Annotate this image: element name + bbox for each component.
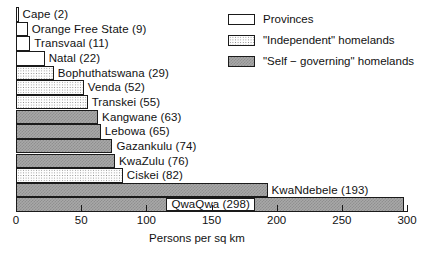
bar-label: Orange Free State (9) <box>28 22 147 37</box>
bar <box>16 66 54 81</box>
bar-label: Kangwane (63) <box>98 110 181 125</box>
axis-tick-label: 0 <box>13 214 19 226</box>
bar-label: Venda (52) <box>84 80 145 95</box>
bar-label: Lebowa (65) <box>101 124 170 139</box>
bar-label: Cape (2) <box>19 7 69 22</box>
legend-swatch <box>228 56 255 67</box>
bar <box>16 22 28 37</box>
axis-tick <box>81 205 82 212</box>
axis-tick <box>16 205 17 212</box>
bar <box>16 124 101 139</box>
bar <box>16 80 84 95</box>
bar-label: Transkei (55) <box>88 95 161 110</box>
bar-label: KwaNdebele (193) <box>268 183 369 198</box>
legend-item: "Self − governing" homelands <box>228 52 414 70</box>
axis-tick-label: 250 <box>332 214 351 226</box>
bar <box>16 51 45 66</box>
bar-label: KwaZulu (76) <box>115 154 189 169</box>
bar-label: Bophuthatswana (29) <box>54 66 169 81</box>
legend-item: "Independent" homelands <box>228 31 414 49</box>
axis-tick-label: 300 <box>397 214 416 226</box>
axis-tick-label: 150 <box>202 214 221 226</box>
axis-tick-label: 200 <box>267 214 286 226</box>
bar-chart: Cape (2)Orange Free State (9)Transvaal (… <box>0 0 434 258</box>
axis-tick-label: 50 <box>75 214 88 226</box>
bar-label: Gazankulu (74) <box>112 139 196 154</box>
bar <box>16 183 268 198</box>
bar <box>16 110 98 125</box>
bar-label: Natal (22) <box>45 51 101 66</box>
bar-label: Ciskei (82) <box>123 168 183 183</box>
axis-title-label: Persons per sq km <box>149 232 245 244</box>
legend-label: Provinces <box>263 13 314 25</box>
bar <box>16 36 30 51</box>
axis-tick <box>277 205 278 212</box>
x-axis: 050100150200250300 Persons per sq km <box>0 205 434 258</box>
axis-tick <box>212 205 213 212</box>
legend-swatch <box>228 14 255 25</box>
bar-label: Transvaal (11) <box>30 36 108 51</box>
bar <box>16 154 115 169</box>
axis-tick <box>407 205 408 212</box>
axis-tick <box>146 205 147 212</box>
legend-label: "Independent" homelands <box>263 34 395 46</box>
bar <box>16 168 123 183</box>
axis-tick-label: 100 <box>137 214 156 226</box>
legend-swatch <box>228 35 255 46</box>
legend-item: Provinces <box>228 10 414 28</box>
chart-legend: Provinces"Independent" homelands"Self − … <box>228 10 414 73</box>
axis-title: Persons per sq km <box>0 232 434 244</box>
bar <box>16 139 112 154</box>
legend-label: "Self − governing" homelands <box>263 55 414 67</box>
bar <box>16 95 88 110</box>
axis-tick <box>342 205 343 212</box>
